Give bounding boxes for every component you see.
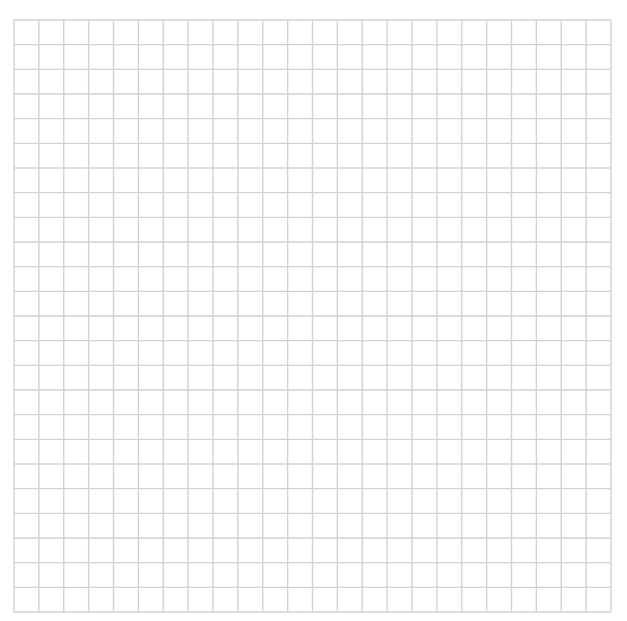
graph-paper [0, 0, 627, 621]
grid-lines [0, 0, 627, 621]
